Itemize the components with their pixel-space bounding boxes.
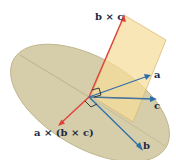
label-a-cross-b-cross-c: a × (b × c)	[34, 128, 94, 138]
label-b: b	[143, 141, 150, 151]
label-a: a	[154, 70, 160, 80]
label-b-cross-c: b × c	[95, 12, 123, 22]
label-c: c	[154, 101, 160, 111]
